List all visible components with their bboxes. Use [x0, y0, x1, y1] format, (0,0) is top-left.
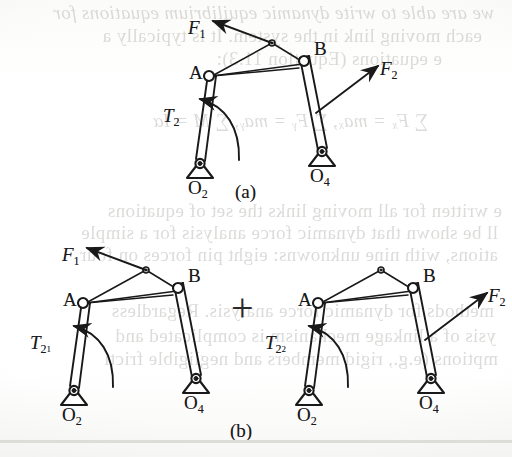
- force-arrow-f1: [87, 248, 146, 270]
- ground-pivot-o2-symbol: [61, 386, 87, 405]
- link-coupler-a-b: [212, 43, 303, 76]
- link-crank-o2-a: [196, 74, 216, 161]
- label-ground-o2-b-right: O2: [297, 404, 317, 429]
- label-o-base: O: [62, 404, 76, 425]
- link-rocker-b-o4: [174, 283, 201, 377]
- label-t-base: T: [265, 332, 276, 353]
- pin-joint-b: [408, 283, 418, 293]
- pin-joint-a: [78, 298, 88, 308]
- ground-pivot-o2-symbol: [296, 386, 322, 405]
- force-arrow-f2: [316, 66, 378, 113]
- label-o-base: O: [184, 392, 198, 413]
- label-o-subscript: 2: [202, 187, 208, 201]
- ground-pivot-o4-symbol: [418, 374, 444, 393]
- label-torque-t2-a: T2: [163, 105, 180, 130]
- label-f-subscript: 2: [500, 295, 506, 309]
- label-torque-t21-b-left: T21: [30, 332, 51, 357]
- label-f-base: F: [380, 58, 392, 79]
- diagram-part-a: [187, 21, 378, 178]
- label-f-subscript: 1: [200, 27, 206, 41]
- label-ground-o4-b-left: O4: [184, 392, 204, 417]
- label-force-f1-a: F1: [188, 17, 206, 42]
- label-joint-a-a: A: [189, 62, 203, 84]
- label-joint-b-b-left: B: [188, 265, 201, 287]
- label-force-f2-a: F2: [380, 58, 398, 83]
- label-t-base: T: [30, 332, 41, 353]
- label-t-subsubscript: 1: [47, 344, 52, 354]
- joint-markers-b-left: [61, 267, 209, 405]
- label-f-subscript: 2: [392, 68, 398, 82]
- link-coupler-a-b: [86, 270, 177, 303]
- pin-joint-b: [173, 283, 183, 293]
- pin-joint-a: [313, 298, 323, 308]
- label-o-subscript: 4: [433, 402, 439, 416]
- label-o-base: O: [297, 404, 311, 425]
- label-force-f1-b-left: F1: [62, 244, 80, 269]
- label-ground-o2-b-left: O2: [62, 404, 82, 429]
- label-o-base: O: [419, 392, 433, 413]
- pin-joint-b: [299, 56, 309, 66]
- link-coupler-a-b: [321, 270, 412, 303]
- joint-markers-a: [187, 40, 335, 178]
- figure-caption-b: (b): [230, 420, 252, 442]
- label-o-subscript: 4: [198, 402, 204, 416]
- label-o-subscript: 4: [324, 175, 330, 189]
- scan-bottom-edge: [0, 440, 512, 443]
- figure-caption-a: (a): [235, 181, 256, 203]
- ground-pivot-o4-symbol: [309, 147, 335, 166]
- superposition-plus-operator: +: [231, 288, 254, 328]
- link-rocker-b-o4: [300, 56, 327, 150]
- coupler-apex-point: [378, 267, 384, 273]
- label-o-subscript: 2: [76, 414, 82, 428]
- label-o-base: O: [188, 177, 202, 198]
- label-t-subscript: 2: [174, 115, 180, 129]
- pin-joint-a: [204, 71, 214, 81]
- label-ground-o4-b-right: O4: [419, 392, 439, 417]
- label-f-base: F: [62, 244, 74, 265]
- label-o-subscript: 2: [311, 414, 317, 428]
- label-o-base: O: [310, 165, 324, 186]
- force-arrow-f1: [213, 21, 272, 43]
- link-rocker-b-o4: [409, 283, 436, 377]
- link-crank-o2-a: [70, 301, 90, 388]
- ground-pivot-o2-symbol: [187, 159, 213, 178]
- label-joint-b-b-right: B: [423, 265, 436, 287]
- label-force-f2-b-right: F2: [488, 285, 506, 310]
- label-t-subsubscript: 2: [282, 344, 287, 354]
- label-joint-b-a: B: [314, 38, 327, 60]
- label-torque-t22-b-right: T22: [265, 332, 286, 357]
- figure-linework: [0, 0, 512, 457]
- force-arrow-f2: [425, 293, 487, 340]
- label-joint-a-b-left: A: [63, 289, 77, 311]
- label-joint-a-b-right: A: [298, 289, 312, 311]
- diagram-part-b-right: [296, 267, 487, 405]
- joint-markers-b-right: [296, 267, 444, 405]
- label-ground-o2-a: O2: [188, 177, 208, 202]
- label-ground-o4-a: O4: [310, 165, 330, 190]
- label-t-base: T: [163, 105, 174, 126]
- diagram-part-b-left: [61, 248, 209, 405]
- label-f-base: F: [488, 285, 500, 306]
- link-crank-o2-a: [305, 301, 325, 388]
- ground-pivot-o4-symbol: [183, 374, 209, 393]
- label-f-base: F: [188, 17, 200, 38]
- label-f-subscript: 1: [74, 254, 80, 268]
